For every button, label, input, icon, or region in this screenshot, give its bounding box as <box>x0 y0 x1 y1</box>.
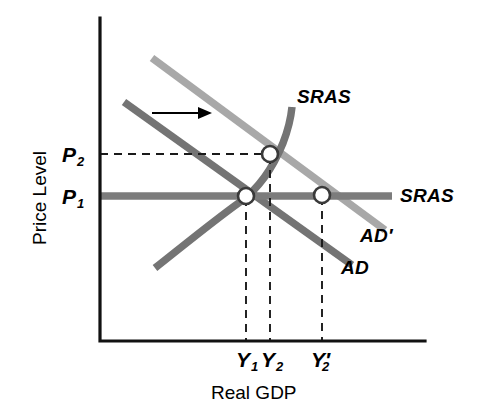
x-axis-title: Real GDP <box>211 383 297 402</box>
equilibrium-marker-y2-p2 <box>262 146 278 162</box>
y-tick-p2-base: P <box>62 143 76 166</box>
x-tick-y1-base: Y <box>236 348 250 371</box>
x-tick-y2prime-sub: 2 <box>322 359 329 374</box>
ad-sras-diagram: Price Level P2 P1 Y1 Y2 Y′2 Real GDP SRA… <box>0 0 477 417</box>
curve-label-ad-prime: AD′ <box>360 226 393 245</box>
y-tick-p2: P2 <box>62 144 83 165</box>
y-tick-p1: P1 <box>62 186 83 207</box>
y-tick-p2-sub: 2 <box>77 154 84 169</box>
x-tick-y2: Y2 <box>261 349 282 370</box>
x-tick-y2-prime: Y′2 <box>311 349 337 370</box>
ad-shift-arrow <box>152 107 212 119</box>
x-tick-y1: Y1 <box>236 349 257 370</box>
equilibrium-marker-y2prime-p1 <box>314 187 330 203</box>
y-tick-p1-sub: 1 <box>77 196 84 211</box>
equilibrium-marker-y1-p1 <box>238 188 254 204</box>
curve-label-ad: AD <box>341 258 369 277</box>
curve-label-sras-upper: SRAS <box>297 87 351 106</box>
y-tick-p1-base: P <box>62 185 76 208</box>
x-tick-y1-sub: 1 <box>251 359 258 374</box>
curve-label-sras-right: SRAS <box>400 186 454 205</box>
sras-upward-curve <box>155 107 292 268</box>
x-tick-y2-sub: 2 <box>276 359 283 374</box>
y-axis-title: Price Level <box>30 151 49 245</box>
x-tick-y2-base: Y <box>261 348 275 371</box>
